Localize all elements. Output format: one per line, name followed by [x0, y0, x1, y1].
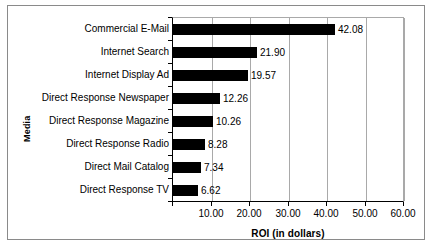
x-axis-tick — [249, 202, 250, 206]
x-axis-tick — [403, 202, 404, 206]
category-label: Internet Search — [0, 47, 169, 57]
y-axis-title: Media — [20, 94, 34, 164]
category-label: Direct Response TV — [0, 185, 169, 195]
bar[interactable] — [173, 70, 248, 81]
x-axis-tick — [365, 202, 366, 206]
bar-row: 6.62 — [173, 179, 403, 202]
bar-value-label: 10.26 — [213, 117, 241, 127]
x-axis-title: ROI (in dollars) — [172, 228, 404, 239]
bar[interactable] — [173, 185, 198, 196]
bar-row: 21.90 — [173, 41, 403, 64]
gridline-60.00 — [404, 18, 405, 201]
plot-area: 42.0821.9019.5712.2610.268.287.346.62 — [172, 17, 404, 202]
x-axis-tick-label: 60.00 — [380, 209, 426, 219]
x-axis-tick — [211, 202, 212, 206]
bar[interactable] — [173, 93, 220, 104]
x-axis-tick — [326, 202, 327, 206]
bar-row: 8.28 — [173, 133, 403, 156]
y-axis-tick — [168, 17, 172, 18]
category-label: Internet Display Ad — [0, 70, 169, 80]
bar-row: 12.26 — [173, 87, 403, 110]
category-label: Commercial E-Mail — [0, 24, 169, 34]
bar-value-label: 21.90 — [257, 48, 285, 58]
category-label: Direct Response Radio — [0, 139, 169, 149]
y-axis-tick — [168, 63, 172, 64]
category-label: Direct Response Magazine — [0, 116, 169, 126]
y-axis-tick — [168, 155, 172, 156]
bar[interactable] — [173, 24, 335, 35]
bar[interactable] — [173, 162, 201, 173]
y-axis-tick — [168, 109, 172, 110]
category-label: Direct Response Newspaper — [0, 93, 169, 103]
bar[interactable] — [173, 139, 205, 150]
bar-value-label: 42.08 — [335, 25, 363, 35]
y-axis-tick — [168, 178, 172, 179]
x-axis-tick — [288, 202, 289, 206]
bar-value-label: 19.57 — [248, 71, 276, 81]
category-label: Direct Mail Catalog — [0, 162, 169, 172]
bar-value-label: 12.26 — [220, 94, 248, 104]
bar-value-label: 8.28 — [205, 140, 227, 150]
y-axis-tick — [168, 132, 172, 133]
bar-value-label: 6.62 — [198, 186, 220, 196]
bar-value-label: 7.34 — [201, 163, 223, 173]
bar[interactable] — [173, 47, 257, 58]
bar-row: 10.26 — [173, 110, 403, 133]
y-axis-tick — [168, 86, 172, 87]
chart-frame: Media 42.0821.9019.5712.2610.268.287.346… — [7, 5, 425, 240]
bar-row: 7.34 — [173, 156, 403, 179]
bar[interactable] — [173, 116, 213, 127]
y-axis-tick — [168, 40, 172, 41]
x-axis-tick-origin — [172, 202, 173, 206]
bar-row: 42.08 — [173, 18, 403, 41]
bar-row: 19.57 — [173, 64, 403, 87]
